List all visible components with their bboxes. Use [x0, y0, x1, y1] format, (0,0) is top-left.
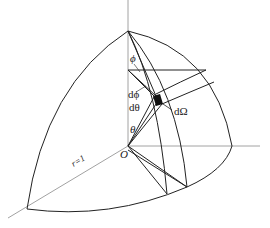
origin-label: O — [120, 149, 128, 160]
sphere-octant-drawing — [0, 0, 270, 228]
solid-angle-patch — [153, 94, 163, 106]
latitude-arc-lower — [162, 82, 214, 104]
phi-label: ϕ — [130, 53, 136, 64]
x-axis — [8, 146, 128, 218]
solid-angle-diagram: ϕ dϕ dθ θ dΩ O r=1 — [0, 0, 270, 228]
right-meridian-arc — [128, 31, 232, 146]
origin-to-equator-phi-dphi — [128, 146, 187, 187]
dphi-label: dϕ — [128, 89, 139, 100]
left-meridian-arc — [27, 31, 128, 209]
theta-label: θ — [130, 124, 135, 135]
projection-line — [128, 150, 187, 187]
dOmega-label: dΩ — [174, 106, 188, 117]
construction-lines — [128, 31, 214, 194]
latitude-arc-upper — [156, 70, 206, 94]
dtheta-label: dθ — [129, 102, 140, 113]
phi-leader — [134, 64, 140, 72]
equator-arc — [27, 146, 232, 212]
